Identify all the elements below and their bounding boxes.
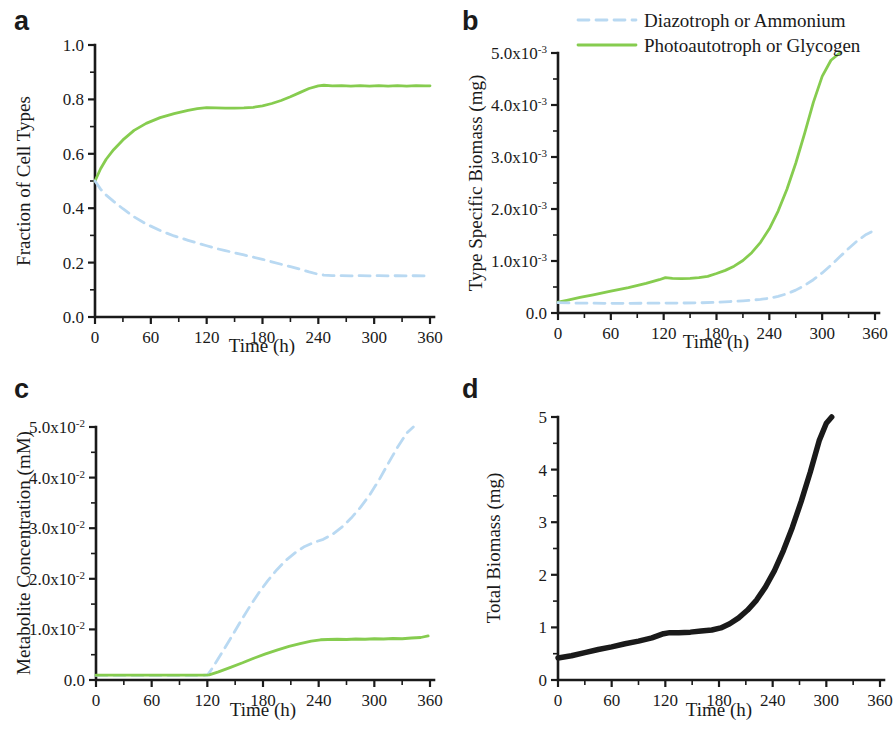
- y-tick-label: 0.0: [63, 308, 84, 327]
- y-tick-label: 0.2: [63, 254, 84, 273]
- x-tick-label: 300: [361, 328, 387, 347]
- x-tick-label: 360: [417, 328, 443, 347]
- y-tick-label: 2: [539, 566, 548, 585]
- x-axis-title: Time (h): [230, 699, 296, 721]
- x-tick-label: 120: [195, 691, 221, 710]
- x-axis-title: Time (h): [686, 699, 752, 721]
- y-axis-title: Fraction of Cell Types: [13, 96, 34, 266]
- x-tick-label: 0: [554, 691, 563, 710]
- x-tick-label: 120: [194, 328, 220, 347]
- x-tick-label: 60: [142, 328, 159, 347]
- panel-letter-b: b: [462, 6, 479, 36]
- panel-letter-a: a: [14, 6, 30, 36]
- legend-label-0: Diazotroph or Ammonium: [644, 10, 846, 31]
- x-tick-label: 240: [760, 691, 786, 710]
- panel-letter-c: c: [14, 374, 29, 404]
- y-tick-label: 1: [539, 618, 548, 637]
- x-tick-label: 120: [653, 691, 679, 710]
- x-tick-label: 0: [91, 328, 100, 347]
- y-axis-title: Type Specific Biomass (mg): [465, 75, 487, 292]
- y-axis-title: Metabolite Concentration (mM): [13, 431, 35, 675]
- x-tick-label: 120: [651, 324, 677, 343]
- x-tick-label: 360: [867, 691, 893, 710]
- x-tick-label: 0: [554, 324, 563, 343]
- y-tick-label: 0.8: [63, 90, 84, 109]
- y-tick-label: 1.0: [63, 36, 84, 55]
- panel-letter-d: d: [462, 374, 479, 404]
- x-tick-label: 240: [757, 324, 783, 343]
- y-tick-label: 0.0: [526, 304, 547, 323]
- legend-label-1: Photoautotroph or Glycogen: [644, 35, 861, 56]
- y-tick-label: 4: [539, 461, 548, 480]
- y-tick-label: 0.0: [64, 671, 85, 690]
- y-tick-label: 0.4: [63, 199, 85, 218]
- x-tick-label: 60: [603, 691, 620, 710]
- y-axis-title: Total Biomass (mg): [483, 473, 505, 624]
- y-tick-label: 0.6: [63, 145, 84, 164]
- x-tick-label: 240: [306, 328, 332, 347]
- y-tick-label: 3: [539, 513, 548, 532]
- x-tick-label: 60: [602, 324, 619, 343]
- x-tick-label: 300: [362, 691, 388, 710]
- x-axis-title: Time (h): [229, 335, 295, 357]
- x-tick-label: 0: [92, 691, 101, 710]
- y-tick-label: 5: [539, 408, 548, 427]
- figure-root: a b c d 0601201802403003600.00.20.40.60.…: [0, 0, 894, 737]
- x-tick-label: 240: [306, 691, 332, 710]
- x-tick-label: 300: [814, 691, 840, 710]
- x-tick-label: 300: [809, 324, 835, 343]
- x-tick-label: 60: [143, 691, 160, 710]
- y-tick-label: 0: [539, 671, 548, 690]
- figure-background: [0, 0, 894, 737]
- x-tick-label: 360: [417, 691, 443, 710]
- x-axis-title: Time (h): [683, 331, 749, 353]
- x-tick-label: 360: [862, 324, 888, 343]
